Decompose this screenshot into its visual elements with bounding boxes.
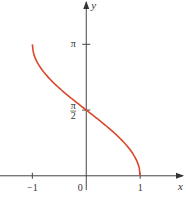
y-axis-label: y <box>90 0 96 11</box>
y-tick-label: π <box>71 38 76 49</box>
x-tick-label: 0 <box>78 182 83 193</box>
x-axis-label: x <box>177 180 183 192</box>
svg-text:2: 2 <box>71 110 76 121</box>
chart: x y −101 ππ2 <box>0 0 186 203</box>
y-tick-label: π2 <box>70 100 76 121</box>
x-tick-label: −1 <box>27 182 38 193</box>
x-tick-label: 1 <box>138 182 143 193</box>
